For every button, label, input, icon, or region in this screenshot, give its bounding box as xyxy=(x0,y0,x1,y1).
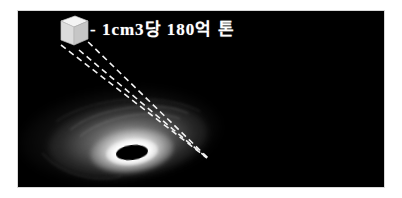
leader-line xyxy=(61,45,207,158)
figure-root: - 1cm3당 180억 톤 xyxy=(0,0,402,198)
annotation-label: - 1cm3당 180억 톤 xyxy=(90,20,235,40)
leader-line xyxy=(79,50,207,158)
leader-lines xyxy=(61,35,208,158)
cube-icon xyxy=(61,16,88,45)
space-panel: - 1cm3당 180억 톤 xyxy=(18,11,384,187)
leader-line xyxy=(81,35,208,158)
